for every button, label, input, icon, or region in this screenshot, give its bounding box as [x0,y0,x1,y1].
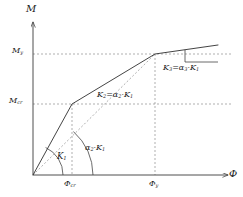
annotation-k1: K1 [57,152,67,161]
k2-equals: = [106,90,113,99]
moment-curvature-figure: M Φ My Mcr Φcr Φy K1 α2·K1 K2=α2·K1 K3=α… [0,0,243,197]
k3-equals: = [172,63,179,72]
arc-alpha2-k1 [73,132,93,176]
k2-k1-sub: 1 [130,93,133,99]
annotation-alpha2-k1: α2·K1 [85,144,105,152]
y-tick-label-mcr: Mcr [9,97,22,105]
angle-arcs [46,132,93,176]
y-axis-label: M [26,4,36,14]
k1-sub: 1 [63,155,66,161]
y-tick-my-sub: y [20,49,23,55]
x-axis-label: Φ [229,169,237,179]
y-tick-my-main: M [12,46,20,55]
y-tick-label-my: My [12,47,23,55]
y-tick-mcr-main: M [9,96,17,105]
annotation-k2-equation: K2=α2·K1 [97,91,133,99]
secant-line-to-yield [33,54,155,175]
x-tick-label-phiy: Φy [149,180,158,188]
x-tick-phiy-sub: y [156,182,159,188]
alpha2-k-sub: 1 [102,146,105,152]
annotation-k3-equation: K3=α3·K1 [163,64,199,72]
x-tick-phicr-sub: cr [71,182,76,188]
k3-slope-triangle [185,50,218,62]
x-tick-label-phicr: Φcr [64,180,76,188]
y-tick-mcr-sub: cr [17,99,22,105]
k3-k1-sub: 1 [196,66,199,72]
